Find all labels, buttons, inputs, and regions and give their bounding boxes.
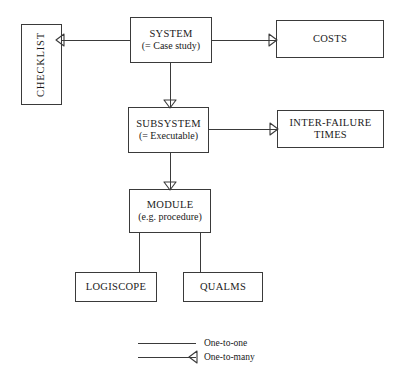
node-costs[interactable]: COSTS	[276, 20, 384, 58]
legend-item-one-to-one: One-to-one	[138, 336, 318, 350]
legend-label-one-to-many: One-to-many	[204, 350, 255, 364]
diagram-canvas: CHECKLIST SYSTEM (= Case study) COSTS SU…	[0, 0, 405, 381]
legend: One-to-one One-to-many	[138, 334, 318, 374]
edge-module-qualms	[200, 233, 201, 272]
node-system[interactable]: SYSTEM (= Case study)	[130, 17, 212, 63]
crowfoot-system-costs	[268, 33, 284, 48]
node-inter-failure-times[interactable]: INTER-FAILURE TIMES	[277, 110, 384, 148]
edge-module-logiscope	[139, 233, 140, 272]
crowfoot-subsystem-module	[163, 181, 178, 197]
node-subsystem-sublabel: (= Executable)	[139, 130, 198, 142]
edge-system-costs	[212, 40, 276, 41]
node-logiscope-label: LOGISCOPE	[86, 281, 146, 293]
node-inter-failure-times-sublabel: TIMES	[314, 129, 347, 141]
node-module-label: MODULE	[147, 199, 194, 211]
legend-line-one-to-one	[138, 343, 196, 344]
node-module-sublabel: (e.g. procedure)	[138, 211, 202, 223]
edge-checklist-system	[62, 40, 130, 41]
node-logiscope[interactable]: LOGISCOPE	[75, 272, 157, 302]
node-costs-label: COSTS	[313, 33, 347, 45]
crowfoot-legend-one-to-many	[188, 350, 204, 364]
node-inter-failure-times-label: INTER-FAILURE	[290, 117, 372, 129]
node-subsystem-label: SUBSYSTEM	[136, 118, 201, 130]
legend-label-one-to-one: One-to-one	[204, 336, 247, 350]
node-qualms-label: QUALMS	[200, 281, 246, 293]
node-system-label: SYSTEM	[149, 28, 192, 40]
node-qualms[interactable]: QUALMS	[183, 272, 263, 302]
node-checklist-label: CHECKLIST	[35, 32, 47, 97]
crowfoot-checklist-system	[55, 33, 71, 48]
crowfoot-subsystem-inter-failure-times	[269, 122, 285, 137]
edge-subsystem-inter-failure-times	[209, 129, 277, 130]
node-system-sublabel: (= Case study)	[142, 40, 200, 52]
legend-item-one-to-many: One-to-many	[138, 350, 318, 364]
crowfoot-system-subsystem	[163, 99, 178, 115]
